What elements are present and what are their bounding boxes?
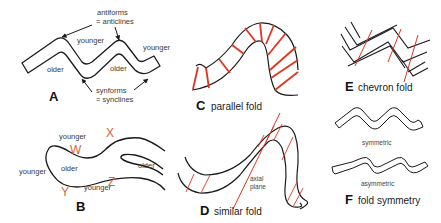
panel-letter-d: D [200,203,209,218]
fold-d-lower-line [178,140,302,207]
panel-c: C parallel fold [192,23,298,113]
antiforms-label: antiforms [97,8,128,17]
asymmetric-fold [332,157,428,174]
point-x-label: X [106,126,114,140]
point-w-label: W [70,143,82,157]
older-label: older [61,164,78,173]
asymmetric-label: asymmetric [361,180,395,188]
arrow-icon [82,79,92,92]
older-label: older [138,161,155,170]
fold-diagram: antiforms = anticlines younger younger o… [0,0,441,223]
arrow-icon [115,27,119,40]
chevron-layers [341,22,430,76]
panel-f-caption: fold symmetry [358,195,420,206]
panel-letter-b: B [76,199,85,214]
point-y-label: Y [61,185,69,199]
panel-c-caption: parallel fold [211,101,262,112]
panel-f: symmetric asymmetric F fold symmetry [332,108,428,207]
panel-d-caption: similar fold [214,206,262,217]
plane-label: plane [250,183,266,191]
younger-label: younger [59,132,87,141]
older-label: older [110,64,127,73]
panel-letter-e: E [345,79,354,94]
panel-a: antiforms = anticlines younger younger o… [22,8,171,104]
point-z-label: Z [108,175,115,189]
panel-letter-c: C [196,98,206,113]
arrow-icon [134,79,148,90]
anticlines-label: = anticlines [96,17,134,26]
younger-label: younger [77,36,105,45]
panel-e: E chevron fold [341,22,430,94]
younger-label: younger [143,43,171,52]
symmetric-label: symmetric [362,139,392,147]
panel-e-caption: chevron fold [358,82,412,93]
younger-label: younger [19,167,47,176]
axial-lines [193,23,298,90]
panel-d: axial plane D similar fold [178,113,308,218]
older-label: older [47,65,64,74]
synforms-label: synforms [96,86,127,95]
axial-label: axial [250,175,264,182]
panel-b: younger younger younger older older W X … [19,126,165,214]
fold-c-lower-line [192,41,298,96]
panel-letter-a: A [49,89,59,104]
synclines-label: = synclines [96,95,134,104]
panel-letter-f: F [345,192,353,207]
symmetric-fold [335,108,423,130]
